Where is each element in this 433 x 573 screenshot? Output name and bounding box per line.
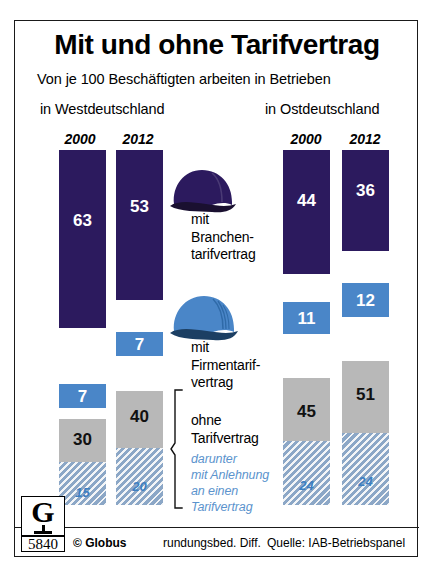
globus-logo-icon: G 5840 — [21, 496, 65, 552]
bar-west-2012-firmen: 7 — [116, 332, 163, 356]
bar-west-2012-ohne: 40 — [116, 391, 163, 448]
bar-east-2000-ohne: 45 — [283, 378, 330, 441]
caption-ohne-tarifvertrag: ohne Tarifvertrag — [191, 412, 259, 447]
caption-branchen-line3: tarifvertrag — [191, 246, 256, 264]
footer-note: rundungsbed. Diff. — [163, 536, 261, 550]
bar-west-2000-anlehnung: 15 — [59, 462, 106, 505]
bar-west-2000-firmen: 7 — [59, 384, 106, 408]
caption-branchentarifvertrag: mit Branchen- tarifvertrag — [191, 211, 256, 264]
caption-darunter-anlehnung: darunter mit Anlehnung an einen Tarifver… — [191, 452, 269, 516]
region-label-east: in Ostdeutschland — [265, 101, 379, 117]
caption-darunter-line4: Tarifvertrag — [191, 500, 269, 516]
caption-branchen-line2: Branchen- — [191, 229, 256, 247]
bar-east-2000-anlehnung: 24 — [283, 441, 330, 505]
footer-divider — [15, 527, 419, 528]
bar-east-2012-ohne: 51 — [342, 361, 389, 433]
footer-copyright: © Globus — [73, 536, 127, 550]
bar-east-2012-anlehnung: 24 — [342, 433, 389, 505]
infographic-page: Mit und ohne Tarifvertrag Von je 100 Bes… — [0, 0, 433, 573]
caption-firmen-line1: mit — [191, 339, 260, 357]
bar-west-2000-ohne: 30 — [59, 419, 106, 462]
bar-west-2012-branchen: 53 — [116, 150, 163, 300]
year-label-east-2000: 2000 — [283, 131, 329, 147]
curly-brace-icon — [170, 389, 186, 509]
bar-east-2012-firmen: 12 — [342, 283, 389, 317]
bar-east-2000-firmen: 11 — [283, 302, 330, 334]
globus-logo-base — [34, 531, 52, 534]
year-label-west-2012: 2012 — [115, 131, 161, 147]
year-label-west-2000: 2000 — [57, 131, 103, 147]
region-label-west: in Westdeutschland — [40, 101, 164, 117]
globus-logo-letter: G — [22, 495, 64, 528]
bar-west-2012-anlehnung: 20 — [116, 448, 163, 505]
bar-east-2000-branchen: 44 — [283, 150, 330, 274]
subtitle: Von je 100 Beschäftigten arbeiten in Bet… — [37, 71, 417, 87]
caption-firmen-line3: vertrag — [191, 374, 260, 392]
chart-frame: Mit und ohne Tarifvertrag Von je 100 Bes… — [14, 20, 418, 557]
caption-firmen-line2: Firmentarif- — [191, 357, 260, 375]
caption-ohne-line2: Tarifvertrag — [191, 430, 259, 448]
page-title: Mit und ohne Tarifvertrag — [15, 29, 419, 61]
hard-hat-icon-dark — [166, 164, 238, 216]
caption-branchen-line1: mit — [191, 211, 256, 229]
year-label-east-2012: 2012 — [342, 131, 388, 147]
caption-darunter-line2: mit Anlehnung — [191, 468, 269, 484]
bar-east-2012-branchen: 36 — [342, 150, 389, 251]
hard-hat-icon-light — [166, 289, 241, 345]
caption-firmentarifvertrag: mit Firmentarif- vertrag — [191, 339, 260, 392]
caption-ohne-line1: ohne — [191, 412, 259, 430]
caption-darunter-line1: darunter — [191, 452, 269, 468]
footer-source: Quelle: IAB-Betriebspanel — [267, 536, 405, 550]
caption-darunter-line3: an einen — [191, 484, 269, 500]
globus-logo-number: 5840 — [22, 536, 64, 553]
bar-west-2000-branchen: 63 — [59, 150, 106, 328]
